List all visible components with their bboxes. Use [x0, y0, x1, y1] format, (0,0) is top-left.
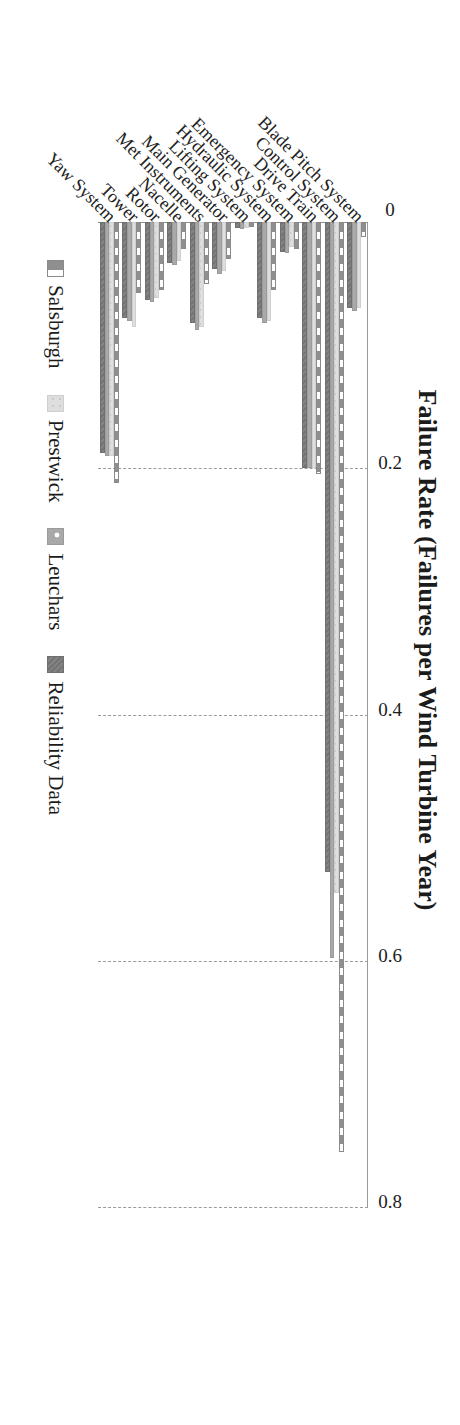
- bar: [334, 222, 339, 893]
- bar-group: [145, 222, 164, 1207]
- bar-group: [190, 222, 209, 1207]
- bar: [307, 222, 312, 468]
- bar: [357, 222, 362, 308]
- x-tick-label: 0.8: [378, 1191, 402, 1213]
- bar: [105, 222, 110, 456]
- bar-chart-figure: Failure Rate (Failures per Wind Turbine …: [0, 0, 460, 1425]
- bar: [212, 222, 217, 269]
- legend-swatch-icon: [47, 656, 64, 673]
- bar: [257, 222, 262, 318]
- bar: [280, 222, 285, 252]
- bar: [289, 222, 294, 247]
- bar-group: [325, 222, 344, 1207]
- x-tick-label: 0.4: [378, 698, 402, 720]
- bar: [195, 222, 200, 330]
- bar: [302, 222, 307, 468]
- plot-inner: 00.20.40.60.8: [98, 222, 368, 1207]
- bar-group: [167, 222, 186, 1207]
- bar: [167, 222, 172, 263]
- bar: [262, 222, 267, 323]
- bar: [109, 222, 114, 456]
- bar: [294, 222, 299, 249]
- bar: [204, 222, 209, 284]
- bar: [136, 222, 141, 293]
- bar: [235, 222, 240, 228]
- legend-item-salsburgh[interactable]: Salsburgh: [43, 260, 68, 369]
- bar: [222, 222, 227, 271]
- rotated-figure-wrapper: Failure Rate (Failures per Wind Turbine …: [0, 0, 460, 1425]
- bar: [347, 222, 352, 308]
- bar: [352, 222, 357, 311]
- bar: [122, 222, 127, 318]
- bar-group: [122, 222, 141, 1207]
- bar: [217, 222, 222, 274]
- legend-swatch-icon: [47, 260, 64, 277]
- legend-label: Salsburgh: [43, 285, 68, 369]
- bar: [325, 222, 330, 872]
- bar: [150, 222, 155, 302]
- bar-group: [280, 222, 299, 1207]
- bar-group: [347, 222, 366, 1207]
- bar-group: [100, 222, 119, 1207]
- legend-label: Prestwick: [43, 420, 68, 503]
- legend-label: Reliability Data: [43, 681, 68, 815]
- bar: [226, 222, 231, 259]
- bar: [285, 222, 290, 253]
- bar: [267, 222, 272, 321]
- bar-group: [212, 222, 231, 1207]
- bar: [181, 222, 186, 249]
- bar-group: [257, 222, 276, 1207]
- bar: [271, 222, 276, 290]
- legend-item-prestwick[interactable]: Prestwick: [43, 395, 68, 503]
- bar: [361, 222, 366, 237]
- bar: [145, 222, 150, 300]
- gridline-0.8: [98, 1207, 368, 1209]
- bar: [159, 222, 164, 290]
- plot-area: 00.20.40.60.8: [98, 222, 368, 1207]
- bar: [114, 222, 119, 483]
- bar: [316, 222, 321, 474]
- bar: [330, 222, 335, 958]
- bar: [154, 222, 159, 298]
- bar: [100, 222, 105, 453]
- x-tick-label: 0.6: [378, 945, 402, 967]
- bar: [339, 222, 344, 1152]
- legend-swatch-icon: [47, 528, 64, 545]
- bar-group: [235, 222, 254, 1207]
- x-tick-label: 0: [385, 199, 395, 221]
- x-tick-label: 0.2: [378, 452, 402, 474]
- bar: [244, 222, 249, 228]
- legend-item-reliability-data[interactable]: Reliability Data: [43, 656, 68, 815]
- bar: [127, 222, 132, 321]
- bar: [249, 222, 254, 227]
- bar: [240, 222, 245, 229]
- legend-item-leuchars[interactable]: Leuchars: [43, 528, 68, 630]
- bar: [312, 222, 317, 468]
- chart-title: Failure Rate (Failures per Wind Turbine …: [413, 300, 442, 1000]
- bar: [199, 222, 204, 327]
- bar: [132, 222, 137, 327]
- legend-swatch-icon: [47, 395, 64, 412]
- bar-group: [302, 222, 321, 1207]
- chart-legend: SalsburghPrestwickLeucharsReliability Da…: [43, 260, 68, 815]
- bar: [172, 222, 177, 265]
- legend-label: Leuchars: [43, 553, 68, 630]
- bar: [177, 222, 182, 261]
- bar: [190, 222, 195, 323]
